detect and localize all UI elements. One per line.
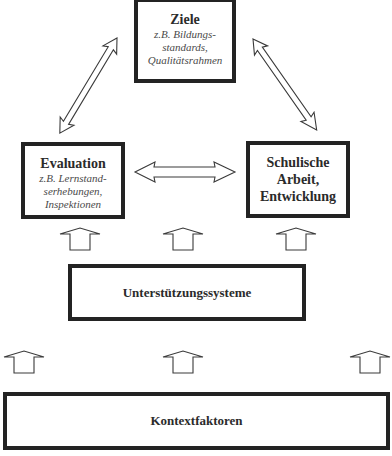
- ziele-subtitle-line: z.B. Bildungs-: [148, 28, 223, 41]
- up-arrow-context-center: [163, 351, 203, 373]
- ziele-subtitle: z.B. Bildungs- standards, Qualitätsrahme…: [148, 28, 223, 67]
- up-arrow-support-left: [60, 228, 100, 250]
- box-kontextfaktoren: Kontextfaktoren: [3, 392, 390, 450]
- up-arrow-context-left: [4, 351, 44, 373]
- ziele-subtitle-line: Qualitätsrahmen: [148, 54, 223, 67]
- up-arrow-support-center: [163, 228, 203, 250]
- schulische-title: Schulische Arbeit, Entwicklung: [260, 154, 336, 205]
- kontextfaktoren-title: Kontextfaktoren: [150, 413, 242, 429]
- evaluation-subtitle-line: Inspektionen: [39, 198, 107, 211]
- ziele-subtitle-line: standards,: [148, 41, 223, 54]
- box-unterstuetzungssysteme: Unterstützungssysteme: [68, 264, 306, 321]
- schulische-title-line: Schulische: [260, 154, 336, 171]
- schulische-title-line: Arbeit,: [260, 171, 336, 188]
- evaluation-title: Evaluation: [40, 156, 105, 172]
- double-arrow-ziele-evaluation: [53, 34, 124, 137]
- schulische-title-line: Entwicklung: [260, 188, 336, 205]
- up-arrow-support-right: [276, 228, 316, 250]
- unterstuetzungssysteme-title: Unterstützungssysteme: [123, 285, 252, 301]
- evaluation-subtitle-line: serhebungen,: [39, 185, 107, 198]
- evaluation-subtitle-line: z.B. Lernstand-: [39, 172, 107, 185]
- box-evaluation: Evaluation z.B. Lernstand- serhebungen, …: [21, 142, 125, 219]
- up-arrow-context-right: [350, 351, 390, 373]
- ziele-title: Ziele: [170, 12, 200, 28]
- box-schulische-arbeit: Schulische Arbeit, Entwicklung: [246, 141, 350, 218]
- evaluation-subtitle: z.B. Lernstand- serhebungen, Inspektione…: [39, 172, 107, 211]
- double-arrow-ziele-schulische: [246, 34, 323, 134]
- double-arrow-evaluation-schulische: [135, 162, 235, 182]
- box-ziele: Ziele z.B. Bildungs- standards, Qualität…: [134, 0, 236, 83]
